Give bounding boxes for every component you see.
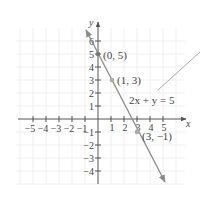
y-axis-label: y — [88, 17, 94, 28]
x-tick-label: −3 — [51, 123, 62, 134]
x-tick-label: 1 — [110, 122, 115, 133]
y-tick-label: −4 — [83, 166, 94, 177]
equation-label: 2x + y = 5 — [129, 94, 175, 106]
point-label-1-3: (1, 3) — [117, 74, 141, 87]
y-tick-label: −1 — [83, 127, 94, 138]
point-3-neg1 — [135, 130, 140, 135]
coordinate-plane: −5 −4 −3 −2 −1 1 2 3 4 5 6 5 4 3 2 1 −1 … — [0, 0, 201, 199]
y-tick-label: 4 — [89, 62, 94, 73]
y-tick-label: −2 — [83, 140, 94, 151]
point-0-5 — [96, 52, 101, 57]
y-tick-label: −3 — [83, 153, 94, 164]
y-tick-label: 1 — [89, 101, 94, 112]
x-tick-label: −4 — [38, 123, 49, 134]
point-label-3-neg1: (3, −1) — [142, 130, 172, 143]
y-tick-label: 3 — [89, 75, 94, 86]
x-tick-label: 2 — [123, 122, 128, 133]
x-tick-label: −5 — [25, 123, 36, 134]
x-tick-label: −2 — [64, 123, 75, 134]
y-tick-label: 5 — [89, 49, 94, 60]
point-label-0-5: (0, 5) — [103, 49, 127, 62]
equation-leader-line — [158, 52, 200, 90]
y-tick-label: 2 — [89, 88, 94, 99]
point-1-3 — [110, 78, 115, 83]
x-axis-label: x — [185, 118, 191, 129]
